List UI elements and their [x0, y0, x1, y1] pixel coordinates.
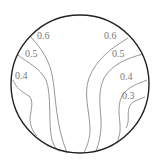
- contour-line-left-0.4: [13, 80, 37, 136]
- contour-svg: 0.60.50.40.60.50.40.3: [0, 0, 159, 166]
- contour-diagram: 0.60.50.40.60.50.40.3: [0, 0, 159, 166]
- contour-label-right-0.3: 0.3: [122, 90, 135, 101]
- contour-label-right-0.6: 0.6: [104, 30, 117, 41]
- contour-label-right-0.4: 0.4: [120, 71, 133, 82]
- contour-label-left-0.6: 0.6: [37, 30, 50, 41]
- contour-label-right-0.5: 0.5: [112, 48, 125, 59]
- contour-label-left-0.4: 0.4: [15, 70, 28, 81]
- circular-boundary: [11, 15, 149, 153]
- contour-label-left-0.5: 0.5: [25, 48, 38, 59]
